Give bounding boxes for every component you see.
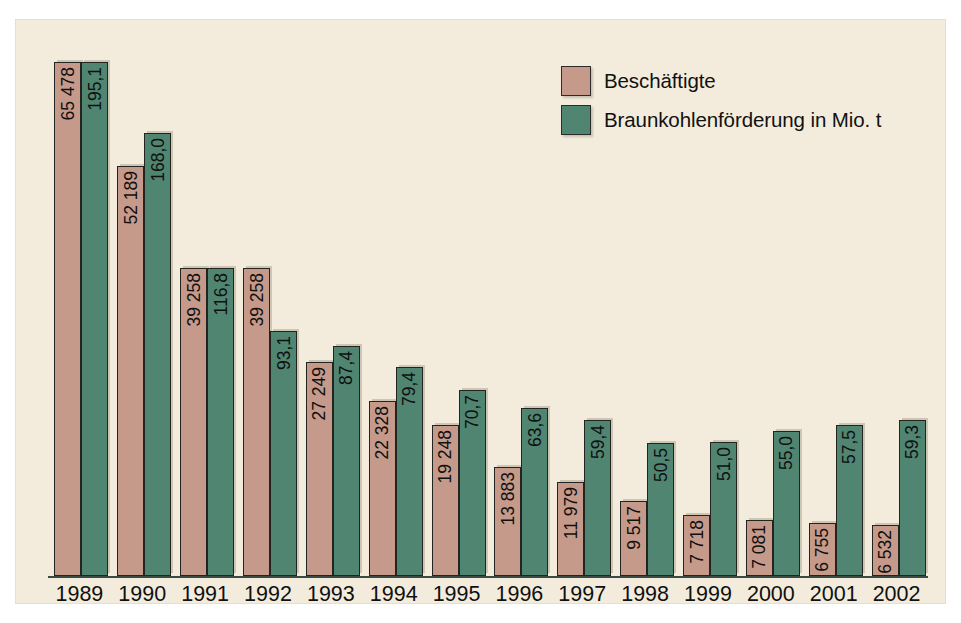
bar-production-2001[interactable]: 57,5: [836, 425, 863, 576]
bar-value-label: 168,0: [147, 138, 168, 182]
bar-value-label: 51,0: [713, 447, 734, 481]
bar-value-label: 59,4: [587, 425, 608, 459]
bar-production-1991[interactable]: 116,8: [207, 268, 234, 576]
x-tick-1994: 1994: [362, 582, 425, 603]
bar-employees-1996[interactable]: 13 883: [494, 467, 521, 576]
bar-value-label: 50,5: [650, 448, 671, 482]
bar-production-1997[interactable]: 59,4: [584, 420, 611, 576]
bar-production-2002[interactable]: 59,3: [899, 420, 926, 576]
x-tick-1993: 1993: [299, 582, 362, 603]
bar-employees-1990[interactable]: 52 189: [117, 166, 144, 576]
plot-area: 65 478195,152 189168,039 258116,839 2589…: [48, 38, 928, 578]
bar-value-label: 65 478: [57, 67, 78, 121]
bar-group-1996: 13 88363,6: [494, 408, 548, 576]
x-tick-1992: 1992: [237, 582, 300, 603]
x-tick-1995: 1995: [425, 582, 488, 603]
bar-value-label: 57,5: [839, 430, 860, 464]
bar-group-1992: 39 25893,1: [243, 268, 297, 576]
bar-value-label: 87,4: [336, 351, 357, 385]
x-axis-tick-labels: 1989199019911992199319941995199619971998…: [48, 582, 928, 603]
bar-employees-1997[interactable]: 11 979: [557, 482, 584, 576]
bar-value-label: 19 248: [435, 430, 456, 484]
chart-figure: Beschäftigte Braunkohlenförderung in Mio…: [0, 0, 961, 623]
bar-group-2001: 6 75557,5: [809, 425, 863, 576]
bar-group-1999: 7 71851,0: [683, 442, 737, 576]
bar-value-label: 27 249: [309, 367, 330, 421]
x-tick-2002: 2002: [865, 582, 928, 603]
x-tick-1989: 1989: [48, 582, 111, 603]
bar-employees-1989[interactable]: 65 478: [54, 62, 81, 576]
bar-employees-2000[interactable]: 7 081: [746, 520, 773, 576]
bar-production-1996[interactable]: 63,6: [521, 408, 548, 576]
bar-value-label: 52 189: [120, 171, 141, 225]
bar-value-label: 70,7: [462, 395, 483, 429]
bar-value-label: 13 883: [497, 472, 518, 526]
bar-value-label: 93,1: [273, 336, 294, 370]
bar-value-label: 195,1: [84, 67, 105, 111]
bar-group-1993: 27 24987,4: [306, 346, 360, 576]
bar-value-label: 7 081: [749, 525, 770, 569]
bar-employees-1993[interactable]: 27 249: [306, 362, 333, 576]
bar-employees-1998[interactable]: 9 517: [620, 501, 647, 576]
bar-production-1998[interactable]: 50,5: [647, 443, 674, 576]
bar-group-1995: 19 24870,7: [432, 390, 486, 576]
bar-production-1990[interactable]: 168,0: [144, 133, 171, 576]
bar-production-1989[interactable]: 195,1: [81, 62, 108, 576]
chart-panel: Beschäftigte Braunkohlenförderung in Mio…: [16, 20, 945, 603]
bar-value-label: 116,8: [210, 273, 231, 316]
bar-group-1994: 22 32879,4: [369, 367, 423, 576]
bar-production-1995[interactable]: 70,7: [459, 390, 486, 576]
bar-value-label: 59,3: [902, 425, 923, 459]
bar-group-1997: 11 97959,4: [557, 420, 611, 576]
bar-employees-1991[interactable]: 39 258: [180, 268, 207, 576]
x-tick-1999: 1999: [677, 582, 740, 603]
x-tick-1990: 1990: [111, 582, 174, 603]
bar-value-label: 6 755: [812, 528, 833, 572]
bar-production-1992[interactable]: 93,1: [270, 331, 297, 576]
x-tick-2001: 2001: [802, 582, 865, 603]
bar-employees-1995[interactable]: 19 248: [432, 425, 459, 576]
bar-value-label: 22 328: [372, 406, 393, 460]
bar-production-2000[interactable]: 55,0: [773, 431, 800, 576]
x-tick-1991: 1991: [174, 582, 237, 603]
bar-value-label: 6 532: [875, 530, 896, 574]
bar-employees-1999[interactable]: 7 718: [683, 515, 710, 576]
bar-group-1990: 52 189168,0: [117, 133, 171, 576]
bar-production-1994[interactable]: 79,4: [396, 367, 423, 576]
bar-employees-1994[interactable]: 22 328: [369, 401, 396, 576]
bar-value-label: 55,0: [776, 436, 797, 470]
bar-value-label: 39 258: [246, 273, 267, 327]
bar-group-1998: 9 51750,5: [620, 443, 674, 576]
bar-group-1991: 39 258116,8: [180, 268, 234, 576]
bar-employees-2001[interactable]: 6 755: [809, 523, 836, 576]
bar-group-2002: 6 53259,3: [872, 420, 926, 576]
x-tick-1996: 1996: [488, 582, 551, 603]
bar-value-label: 7 718: [686, 520, 707, 564]
x-axis-line: [48, 576, 928, 578]
bar-production-1999[interactable]: 51,0: [710, 442, 737, 576]
bar-employees-2002[interactable]: 6 532: [872, 525, 899, 576]
bar-value-label: 63,6: [524, 413, 545, 447]
bar-value-label: 79,4: [399, 372, 420, 406]
bar-group-1989: 65 478195,1: [54, 62, 108, 576]
x-tick-1998: 1998: [614, 582, 677, 603]
bar-value-label: 9 517: [623, 506, 644, 550]
x-tick-1997: 1997: [551, 582, 614, 603]
x-tick-2000: 2000: [739, 582, 802, 603]
bar-production-1993[interactable]: 87,4: [333, 346, 360, 576]
bar-group-2000: 7 08155,0: [746, 431, 800, 576]
bar-value-label: 39 258: [183, 273, 204, 327]
bar-value-label: 11 979: [560, 487, 581, 539]
bar-employees-1992[interactable]: 39 258: [243, 268, 270, 576]
